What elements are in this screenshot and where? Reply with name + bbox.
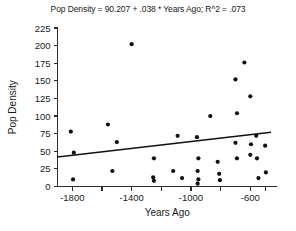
data-point	[180, 176, 184, 180]
y-axis-title: Pop Density	[7, 80, 18, 134]
data-point	[216, 160, 220, 164]
data-point	[256, 176, 260, 180]
data-point	[69, 129, 73, 133]
y-tick-label: 0	[45, 181, 50, 192]
data-point	[151, 175, 155, 179]
data-point	[254, 134, 258, 138]
data-point	[71, 177, 75, 181]
data-point	[176, 134, 180, 138]
data-point	[115, 140, 119, 144]
data-point	[110, 169, 114, 173]
y-tick-label: 175	[35, 58, 51, 69]
data-point	[72, 151, 76, 155]
data-point	[106, 122, 110, 126]
data-point	[264, 170, 268, 174]
regression-line	[58, 132, 272, 157]
data-point	[130, 42, 134, 46]
scatter-chart: Pop Density = 90.207 + .038 * Years Ago;…	[0, 0, 296, 231]
data-point	[217, 172, 221, 176]
y-tick-label: 125	[35, 93, 51, 104]
data-point	[242, 60, 246, 64]
plot-area: 0255075100125150175200225 -1800-1400-100…	[0, 0, 296, 231]
x-tick-label: -1800	[60, 192, 84, 203]
data-point	[235, 111, 239, 115]
data-points-group	[69, 42, 268, 186]
y-tick-label: 100	[35, 111, 51, 122]
data-point	[248, 153, 252, 157]
x-axis-title: Years Ago	[145, 207, 191, 218]
x-tick-label: -1400	[119, 192, 143, 203]
y-tick-label: 75	[40, 128, 51, 139]
y-tick-label: 50	[40, 146, 51, 157]
y-tick-label: 225	[35, 23, 51, 34]
data-point	[195, 135, 199, 139]
data-point	[233, 77, 237, 81]
y-tick-label: 200	[35, 40, 51, 51]
data-point	[196, 169, 200, 173]
data-point	[152, 156, 156, 160]
x-tick-label: -600	[241, 192, 260, 203]
data-point	[218, 178, 222, 182]
data-point	[196, 177, 200, 181]
data-point	[235, 156, 239, 160]
y-tick-label: 150	[35, 75, 51, 86]
data-point	[208, 114, 212, 118]
data-point	[233, 141, 237, 145]
data-point	[248, 94, 252, 98]
data-point	[152, 179, 156, 183]
data-point	[263, 144, 267, 148]
y-tick-label: 25	[40, 163, 51, 174]
data-point	[249, 142, 253, 146]
data-point	[196, 182, 200, 186]
data-point	[171, 169, 175, 173]
data-point	[196, 156, 200, 160]
x-tick-label: -1000	[179, 192, 203, 203]
data-point	[255, 156, 259, 160]
x-axis-tick-labels: -1800-1400-1000-600	[60, 192, 260, 203]
y-axis-tick-labels: 0255075100125150175200225	[35, 23, 51, 193]
